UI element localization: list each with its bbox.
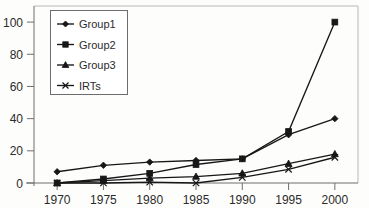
legend-label: IRTs bbox=[79, 80, 101, 92]
marker-square bbox=[286, 129, 292, 135]
chart-canvas: 020406080100 197019751980198519901995200… bbox=[0, 0, 369, 208]
x-tick-label: 1995 bbox=[275, 193, 302, 207]
legend-label: Group3 bbox=[79, 59, 116, 71]
marker-square bbox=[193, 162, 199, 168]
x-tick-label: 1985 bbox=[183, 193, 210, 207]
y-tick-label: 60 bbox=[10, 80, 24, 94]
marker-diamond bbox=[147, 159, 153, 165]
legend-label: Group1 bbox=[79, 18, 116, 30]
marker-square bbox=[63, 42, 68, 47]
y-tick-label: 80 bbox=[10, 48, 24, 62]
y-tick-label: 20 bbox=[10, 144, 24, 158]
y-tick-label: 40 bbox=[10, 112, 24, 126]
x-tick-label: 1980 bbox=[136, 193, 163, 207]
marker-triangle bbox=[331, 150, 338, 156]
marker-square bbox=[332, 19, 338, 25]
x-tick-label: 1990 bbox=[229, 193, 256, 207]
x-tick-label: 2000 bbox=[322, 193, 349, 207]
marker-diamond bbox=[332, 115, 338, 121]
y-axis-tick-labels: 020406080100 bbox=[3, 16, 23, 191]
legend-label: Group2 bbox=[79, 39, 116, 51]
x-tick-label: 1970 bbox=[44, 193, 71, 207]
chart-legend: Group1Group2Group3IRTs bbox=[51, 11, 128, 95]
y-tick-label: 100 bbox=[3, 16, 23, 30]
y-tick-label: 0 bbox=[16, 177, 23, 191]
y-axis-ticks bbox=[27, 22, 34, 183]
marker-diamond bbox=[100, 162, 106, 168]
x-axis-tick-labels: 1970197519801985199019952000 bbox=[44, 193, 349, 207]
marker-diamond bbox=[54, 169, 60, 175]
line-chart-figure: 020406080100 197019751980198519901995200… bbox=[0, 0, 369, 208]
x-tick-label: 1975 bbox=[90, 193, 117, 207]
x-axis-ticks bbox=[57, 183, 335, 190]
marker-square bbox=[239, 156, 245, 162]
